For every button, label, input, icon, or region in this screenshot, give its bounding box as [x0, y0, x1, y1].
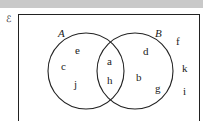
universal-set-symbol: ℰ: [6, 14, 12, 24]
element-i: i: [183, 85, 186, 97]
element-e: e: [75, 44, 80, 56]
element-h: h: [107, 74, 113, 86]
element-k: k: [182, 62, 188, 74]
element-j: j: [73, 78, 77, 90]
element-b: b: [136, 71, 142, 83]
element-d: d: [143, 45, 149, 57]
element-c: c: [61, 60, 66, 72]
set-a-circle: [48, 33, 124, 109]
element-f: f: [176, 35, 180, 47]
set-b-label: B: [155, 27, 162, 39]
set-b-circle: [97, 33, 173, 109]
element-g: g: [155, 82, 161, 94]
element-a: a: [107, 55, 112, 67]
set-a-label: A: [57, 27, 65, 39]
venn-diagram: ℰ A B e c j a h d b g f k i: [0, 0, 203, 121]
